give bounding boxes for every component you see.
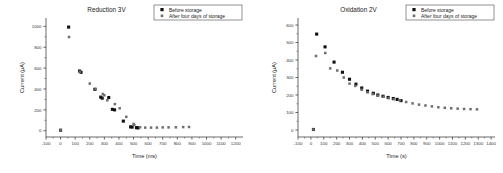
reduction-y-tick-label: 400	[34, 87, 42, 92]
data-point	[328, 67, 331, 70]
oxidation-x-tick-label: 800	[410, 141, 418, 146]
oxidation-legend-label-before: Before storage	[421, 7, 454, 13]
data-point	[443, 107, 446, 110]
data-point	[332, 61, 335, 64]
oxidation-x-tick-label: 500	[371, 141, 379, 146]
data-point	[59, 129, 62, 132]
reduction-x-tick-label: -100	[42, 141, 51, 146]
data-point	[411, 102, 414, 105]
data-point	[118, 107, 121, 110]
data-point	[312, 128, 315, 131]
data-point	[182, 126, 185, 129]
reduction-x-tick-label: 200	[86, 141, 94, 146]
data-point	[395, 98, 398, 101]
reduction-y-tick-label: 600	[34, 66, 42, 71]
reduction-legend-marker-before	[160, 8, 163, 11]
reduction-y-tick-label: 0	[39, 128, 42, 133]
data-point	[101, 97, 104, 100]
reduction-x-tick-label: 0	[59, 141, 62, 146]
data-point	[175, 126, 178, 129]
data-point	[376, 94, 379, 97]
data-point	[144, 126, 147, 128]
oxidation-x-tick-label: 1000	[434, 141, 444, 146]
oxidation-x-tick-label: 300	[345, 141, 353, 146]
reduction-x-tick-label: 400	[115, 141, 123, 146]
data-point	[382, 96, 385, 99]
oxidation-series-before	[311, 33, 402, 131]
data-point	[106, 99, 109, 102]
reduction-chart-title: Reduction 3V	[87, 6, 126, 13]
data-point	[167, 126, 170, 128]
data-point	[113, 108, 116, 111]
data-point	[114, 103, 117, 106]
oxidation-y-tick-label: 300	[286, 75, 294, 80]
data-point	[156, 126, 159, 128]
oxidation-x-tick-label: -100	[293, 141, 302, 146]
data-point	[342, 76, 345, 79]
oxidation-plot-svg: Oxidation 2V-100010020030040050060070080…	[252, 0, 503, 173]
data-point	[360, 89, 363, 92]
reduction-y-tick-label: 800	[34, 45, 42, 50]
data-point	[398, 99, 401, 102]
oxidation-series-after	[312, 52, 478, 131]
data-point	[107, 96, 110, 99]
data-point	[122, 120, 125, 123]
data-point	[366, 91, 369, 94]
oxidation-x-tick-label: 1100	[447, 141, 457, 146]
oxidation-x-tick-label: 600	[384, 141, 392, 146]
data-point	[371, 93, 374, 96]
oxidation-x-tick-label: 200	[332, 141, 340, 146]
reduction-x-tick-label: 300	[101, 141, 109, 146]
oxidation-legend-marker-before	[412, 8, 415, 11]
reduction-legend-label-before: Before storage	[169, 7, 202, 13]
oxidation-x-tick-label: 1400	[486, 141, 496, 146]
data-point	[387, 97, 390, 100]
reduction-x-tick-label: 800	[174, 141, 182, 146]
data-point	[324, 52, 327, 55]
reduction-y-tick-label: 200	[34, 108, 42, 113]
reduction-x-tick-label: 100	[72, 141, 80, 146]
oxidation-x-tick-label: 900	[423, 141, 431, 146]
reduction-legend-marker-after	[161, 15, 164, 18]
oxidation-legend-marker-after	[412, 15, 415, 18]
data-point	[336, 69, 339, 72]
reduction-x-tick-label: 1200	[231, 141, 241, 146]
reduction-x-tick-label: 900	[188, 141, 196, 146]
data-point	[139, 126, 142, 129]
data-point	[79, 71, 82, 74]
data-point	[469, 108, 472, 111]
data-point	[125, 116, 128, 119]
data-point	[348, 82, 351, 85]
data-point	[103, 94, 106, 97]
data-point	[314, 55, 316, 58]
reduction-y-tick-label: 1000	[32, 24, 42, 29]
data-point	[150, 126, 153, 128]
oxidation-y-tick-label: 200	[286, 93, 294, 98]
data-point	[67, 26, 70, 29]
oxidation-x-tick-label: 1300	[473, 141, 483, 146]
oxidation-legend-label-after: After four days of storage	[421, 13, 477, 19]
reduction-legend-label-after: After four days of storage	[169, 13, 225, 19]
data-point	[417, 103, 420, 106]
reduction-x-tick-label: 600	[144, 141, 152, 146]
oxidation-y-tick-label: 0	[291, 128, 294, 133]
data-point	[133, 124, 136, 127]
oxidation-x-tick-label: 1200	[460, 141, 470, 146]
data-point	[315, 33, 318, 36]
oxidation-chart-root: Oxidation 2V-100010020030040050060070080…	[271, 5, 497, 159]
data-point	[89, 82, 92, 85]
oxidation-x-tick-label: 400	[358, 141, 366, 146]
data-point	[462, 108, 465, 111]
reduction-x-tick-label: 500	[130, 141, 138, 146]
data-point	[456, 107, 459, 110]
data-point	[340, 71, 343, 74]
data-point	[392, 98, 395, 101]
reduction-x-tick-label: 1000	[202, 141, 212, 146]
oxidation-y-tick-label: 400	[286, 58, 294, 63]
oxidation-x-tick-label: 100	[320, 141, 328, 146]
data-point	[188, 126, 191, 128]
oxidation-x-axis-title: Time (s)	[386, 153, 406, 159]
scatter-figure-pair: Reduction 3V-100010020030040050060070080…	[0, 0, 503, 173]
data-point	[347, 78, 350, 81]
reduction-y-axis-title: Current (µA)	[19, 62, 25, 93]
